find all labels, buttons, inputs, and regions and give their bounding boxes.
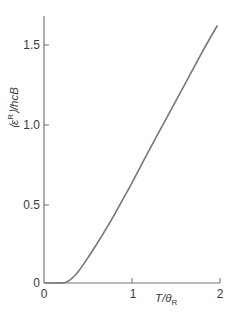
- svg-text:T/θR: T/θR: [155, 292, 177, 307]
- x-axis-label: T/θR: [155, 292, 177, 307]
- x-tick-label: 1: [130, 287, 137, 301]
- svg-text:⟨εR⟩/hcB: ⟨εR⟩/hcB: [6, 87, 20, 129]
- x-tick-label: 2: [217, 287, 224, 301]
- y-tick-label: 0.5: [23, 198, 40, 212]
- y-tick-label: 0: [33, 276, 40, 290]
- x-label-sub: R: [171, 298, 177, 307]
- y-axis: 0 0.5 1.0 1.5: [23, 16, 49, 290]
- y-axis-label: ⟨εR⟩/hcB: [6, 87, 20, 129]
- chart: 0 0.5 1.0 1.5 0 1 2 T/θR ⟨εR⟩/hcB: [0, 0, 235, 313]
- y-tick-label: 1.0: [23, 118, 40, 132]
- energy-curve: [44, 25, 217, 283]
- y-label-close: ⟩/hcB: [8, 87, 20, 114]
- x-tick-label: 0: [41, 287, 48, 301]
- x-label-main: T/θ: [155, 292, 172, 304]
- y-tick-label: 1.5: [23, 38, 40, 52]
